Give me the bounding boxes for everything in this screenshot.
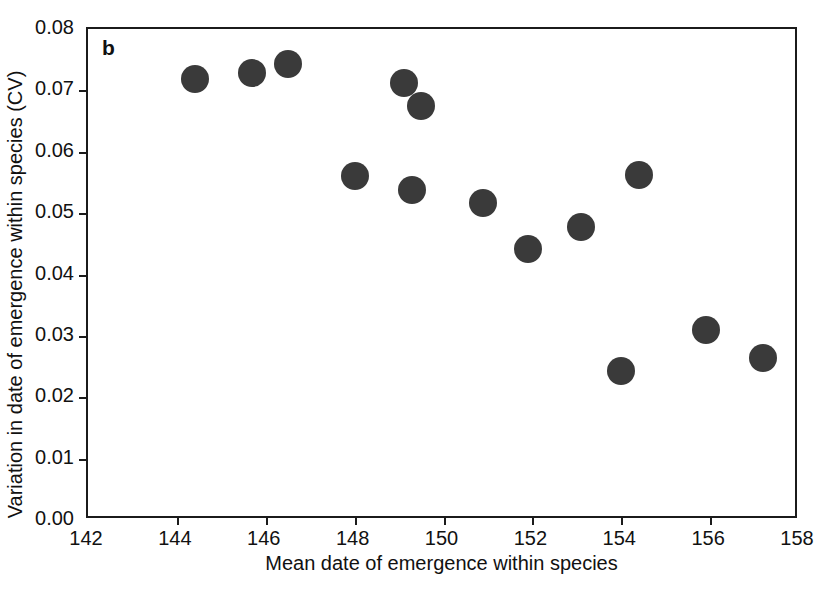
y-axis-tick-label: 0.08	[35, 16, 74, 39]
y-axis-tick-label: 0.03	[35, 322, 74, 345]
y-axis-tick-label: 0.06	[35, 138, 74, 161]
y-axis-tick	[79, 152, 88, 154]
panel-label: b	[102, 37, 115, 58]
data-point	[407, 92, 435, 120]
x-axis-tick-label: 154	[603, 527, 636, 550]
x-axis-title: Mean date of emergence within species	[86, 552, 797, 575]
y-axis-tick	[79, 213, 88, 215]
data-point	[181, 65, 209, 93]
x-axis-tick-label: 156	[691, 527, 724, 550]
data-point	[341, 162, 369, 190]
data-point	[238, 59, 266, 87]
y-axis-tick-label: 0.05	[35, 200, 74, 223]
data-point	[398, 176, 426, 204]
y-axis-tick-label: 0.01	[35, 445, 74, 468]
x-axis-tick	[355, 516, 357, 525]
x-axis-tick	[266, 516, 268, 525]
y-axis-tick-label: 0.04	[35, 261, 74, 284]
x-axis-tick	[532, 516, 534, 525]
x-axis-tick-label: 146	[247, 527, 280, 550]
y-axis-tick	[79, 397, 88, 399]
y-axis-tick-label: 0.07	[35, 77, 74, 100]
x-axis-tick-label: 144	[158, 527, 191, 550]
x-axis-tick	[621, 516, 623, 525]
y-axis-tick	[79, 459, 88, 461]
x-axis-tick-label: 152	[514, 527, 547, 550]
x-axis-tick	[177, 516, 179, 525]
y-axis-tick	[79, 90, 88, 92]
data-point	[625, 161, 653, 189]
x-axis-tick	[444, 516, 446, 525]
y-axis-tick	[79, 336, 88, 338]
x-axis-tick-label: 148	[336, 527, 369, 550]
data-point	[692, 316, 720, 344]
y-axis-title: Variation in date of emergence within sp…	[2, 0, 28, 589]
data-point	[567, 213, 595, 241]
data-point	[514, 235, 542, 263]
scatter-plot-figure: 0.000.010.020.030.040.050.060.070.08 Var…	[0, 0, 814, 589]
x-axis-tick-label: 142	[69, 527, 102, 550]
data-point	[749, 344, 777, 372]
plot-area: b	[86, 27, 797, 518]
y-axis-tick	[79, 275, 88, 277]
x-axis-tick-label: 150	[425, 527, 458, 550]
data-point	[274, 50, 302, 78]
x-axis-tick-label: 158	[780, 527, 813, 550]
y-axis-tick-label: 0.02	[35, 384, 74, 407]
data-point	[607, 357, 635, 385]
data-point	[469, 189, 497, 217]
x-axis-tick	[710, 516, 712, 525]
